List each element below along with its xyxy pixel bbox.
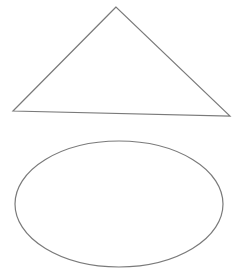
- ellipse-shape: [15, 141, 223, 267]
- triangle-shape: [13, 7, 230, 116]
- diagram-canvas: [0, 0, 237, 276]
